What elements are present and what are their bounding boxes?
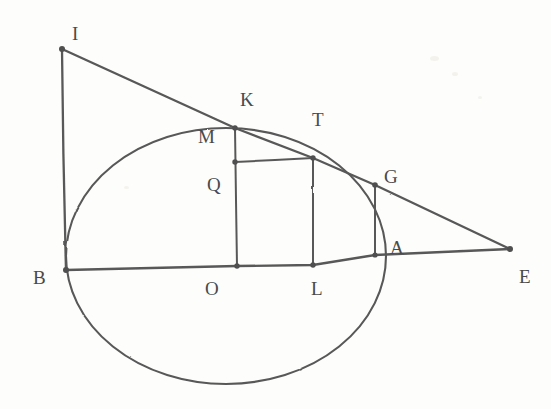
geometry-figure: I K M T Q G A B O L E xyxy=(0,0,551,409)
vertex-dot-G xyxy=(372,182,378,188)
main-circle xyxy=(66,128,386,384)
point-label-K: K xyxy=(240,90,254,109)
vertex-dot-B xyxy=(63,267,69,273)
paper-speck xyxy=(430,56,439,61)
paper-speck xyxy=(478,96,482,99)
point-label-B: B xyxy=(33,268,46,287)
point-label-A: A xyxy=(390,238,404,257)
paper-speck xyxy=(124,186,129,189)
point-label-I: I xyxy=(72,24,79,43)
point-label-M: M xyxy=(198,127,215,146)
geometry-canvas xyxy=(0,0,551,409)
point-label-T: T xyxy=(312,110,324,129)
point-label-E: E xyxy=(519,267,531,286)
vertex-dot-E xyxy=(507,246,513,252)
vertex-dot-Q xyxy=(232,159,237,164)
point-label-L: L xyxy=(311,279,323,298)
vertex-dot-K xyxy=(232,125,237,130)
segment-Q-T xyxy=(235,158,313,162)
vertex-dot-A xyxy=(372,252,377,257)
segment-I-B xyxy=(62,49,66,270)
vertex-dot-O xyxy=(234,263,239,268)
point-label-G: G xyxy=(384,167,398,186)
segment-I-E xyxy=(62,49,510,249)
vertex-dot-T xyxy=(310,155,315,160)
vertex-dot-L xyxy=(310,262,315,267)
segment-M-O xyxy=(235,128,237,266)
vertex-dot-I xyxy=(59,46,65,52)
segment-B-E xyxy=(66,249,510,270)
point-label-Q: Q xyxy=(207,175,221,194)
point-label-O: O xyxy=(205,279,219,298)
paper-speck xyxy=(452,72,458,76)
